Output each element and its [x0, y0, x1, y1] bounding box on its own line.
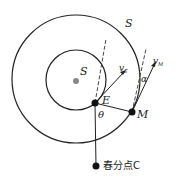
mars-velocity-vector: [132, 63, 155, 112]
mars-label: M: [136, 108, 149, 121]
earth-velocity-label: vE: [119, 63, 128, 74]
alpha-label: α: [141, 74, 147, 84]
mars-point: [129, 109, 136, 116]
equinox-point: [93, 163, 100, 170]
earth-point: [92, 100, 99, 107]
outer-orbit-label: S: [125, 17, 133, 30]
vernal-equinox-label: 春分点C: [103, 160, 140, 171]
mars-velocity-label: vM: [153, 56, 164, 67]
theta-label: θ: [98, 109, 104, 120]
sun-label: S: [80, 65, 88, 78]
earth-to-equinox-line: [95, 103, 96, 166]
orbit-diagram: S S E M θ α vE vM 春分点C: [0, 0, 179, 182]
sun-dot: [73, 78, 79, 84]
earth-label: E: [101, 94, 110, 107]
